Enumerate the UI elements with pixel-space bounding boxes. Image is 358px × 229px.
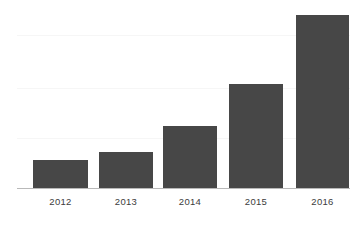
bar-chart: 2012 2013 2014 2015 2016 [0, 0, 358, 229]
plot-area: 2012 2013 2014 2015 2016 [0, 0, 358, 229]
x-tick-label-2015: 2015 [229, 196, 283, 208]
x-axis-tick-labels: 2012 2013 2014 2015 2016 [0, 196, 358, 212]
x-tick-label-2016: 2016 [296, 196, 349, 208]
bar-2013[interactable] [99, 152, 153, 188]
bar-2015[interactable] [229, 84, 283, 188]
bar-2016[interactable] [296, 15, 349, 188]
bar-2014[interactable] [163, 126, 217, 188]
bar-2012[interactable] [33, 160, 88, 188]
x-tick-label-2013: 2013 [99, 196, 153, 208]
bars-layer [0, 0, 358, 229]
x-tick-label-2014: 2014 [163, 196, 217, 208]
x-tick-label-2012: 2012 [33, 196, 88, 208]
